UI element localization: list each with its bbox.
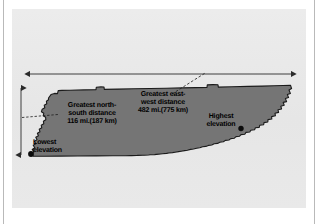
ew-label-line-3: 482 mi.(775 km) <box>125 107 201 115</box>
lowest-elevation-line-1: Lowest <box>33 139 93 147</box>
ew-label-line-1: Greatest east- <box>125 91 201 99</box>
greatest-east-west-distance-label: Greatest east- west distance 482 mi.(775… <box>125 91 201 116</box>
highest-elevation-line-1: Highest <box>200 113 242 121</box>
greatest-north-south-distance-label: Greatest north- south distance 116 mi.(1… <box>55 102 129 127</box>
lowest-elevation-line-2: elevation <box>33 147 93 155</box>
figure-root: Greatest north- south distance 116 mi.(1… <box>0 0 326 224</box>
ns-label-line-3: 116 mi.(187 km) <box>55 118 129 126</box>
highest-elevation-line-2: elevation <box>200 121 242 129</box>
lowest-elevation-label: Lowest elevation <box>33 139 93 155</box>
ns-label-line-1: Greatest north- <box>55 102 129 110</box>
highest-elevation-label: Highest elevation <box>200 113 242 129</box>
